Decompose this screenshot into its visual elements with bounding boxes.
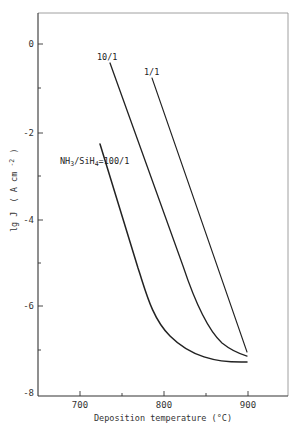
y-tick-label: 0 [29,39,34,49]
y-ticks [38,44,43,350]
curve-100-1 [100,144,247,362]
y-tick-label: -2 [23,128,34,138]
series-label-10-1: 10/1 [97,52,117,62]
y-axis-label-main: lg J [9,212,19,232]
y-tick-label: -4 [23,215,34,225]
y-axis-label-close: ) [9,148,19,153]
curve-10-1 [110,63,247,356]
x-tick-label: 800 [156,400,172,410]
y-axis-label-unit: ( A cm [9,172,19,203]
plot-frame [38,13,288,396]
y-tick-label: -8 [23,388,34,398]
series-label-1-1: 1/1 [144,67,159,77]
x-ticks [80,391,248,396]
x-tick-label: 700 [72,400,88,410]
y-axis-label: lg J ( A cm -2 ) [6,148,19,232]
y-axis-label-exp: -2 [8,159,16,167]
x-tick-label: 900 [240,400,256,410]
svg-text:lg J ( A cm -2: lg J ( A cm -2 ) [6,148,19,232]
y-tick-labels: 0 -2 -4 -6 -8 [23,39,34,398]
series-label-100-1: NH3/SiH4=100/1 [60,156,129,168]
chart: 0 -2 -4 -6 -8 700 800 900 Deposition tem… [0,0,299,428]
x-axis-label: Deposition temperature (°C) [94,413,232,423]
series-curves [100,63,247,362]
y-tick-label: -6 [23,301,34,311]
x-tick-labels: 700 800 900 [72,400,256,410]
curve-1-1 [152,78,247,352]
